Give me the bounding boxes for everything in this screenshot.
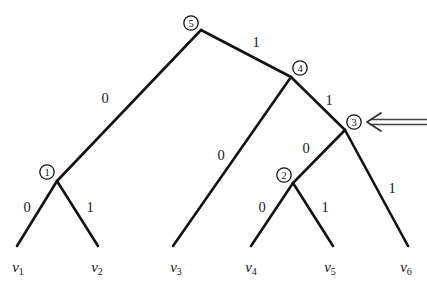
node-2-label: 2: [281, 170, 286, 181]
leaf-v2-sub: 2: [98, 266, 103, 277]
node-1[interactable]: 1: [40, 165, 54, 179]
edge-label-n5-n4: 1: [252, 34, 259, 50]
leaf-v3-sub: 3: [177, 266, 182, 277]
node-1-label: 1: [44, 167, 49, 178]
leaf-label-v4: v4: [245, 259, 257, 277]
leaf-labels: v1 v2 v3 v4 v5 v6: [12, 259, 412, 277]
edge-n2-v4: [251, 183, 293, 246]
leaf-label-v3: v3: [170, 259, 182, 277]
edge-label-n2-v5: 1: [321, 199, 328, 215]
node-5-label: 5: [188, 18, 193, 29]
edge-label-n3-v6: 1: [388, 180, 395, 196]
node-3-label: 3: [351, 117, 356, 128]
node-4[interactable]: 4: [293, 61, 307, 75]
binary-tree-diagram: 5 4 3 1 2 0 1 0 1 0: [0, 0, 427, 283]
leaf-v6-sub: 6: [407, 266, 412, 277]
tree-edges: [17, 30, 408, 246]
pointer-arrow-icon: [367, 113, 427, 131]
node-2[interactable]: 2: [277, 168, 291, 182]
leaf-v5-sub: 5: [331, 266, 336, 277]
edge-n3-v6: [345, 130, 408, 246]
edge-n4-n3: [291, 77, 345, 130]
edge-n5-n4: [201, 30, 291, 77]
edge-n4-v3: [173, 77, 291, 246]
node-5[interactable]: 5: [184, 16, 198, 30]
leaf-v4-sub: 4: [252, 266, 257, 277]
arrow-head: [367, 113, 381, 131]
figure-canvas: 5 4 3 1 2 0 1 0 1 0: [0, 0, 427, 283]
node-3[interactable]: 3: [347, 115, 361, 129]
leaf-label-v2: v2: [91, 259, 103, 277]
edge-label-n4-v3: 0: [217, 147, 224, 163]
edge-label-n1-v2: 1: [86, 199, 93, 215]
edge-n3-n2: [293, 130, 345, 183]
leaf-label-v1: v1: [12, 259, 24, 277]
edge-label-n1-v1: 0: [23, 199, 30, 215]
edge-label-n3-n2: 0: [302, 140, 309, 156]
leaf-label-v5: v5: [324, 259, 336, 277]
edge-label-n5-n1: 0: [101, 90, 108, 106]
edge-label-n4-n3: 1: [325, 92, 332, 108]
node-4-label: 4: [297, 63, 303, 74]
edge-n5-n1: [57, 30, 201, 181]
edge-label-n2-v4: 0: [258, 199, 265, 215]
leaf-label-v6: v6: [400, 259, 412, 277]
leaf-v1-sub: 1: [19, 266, 24, 277]
